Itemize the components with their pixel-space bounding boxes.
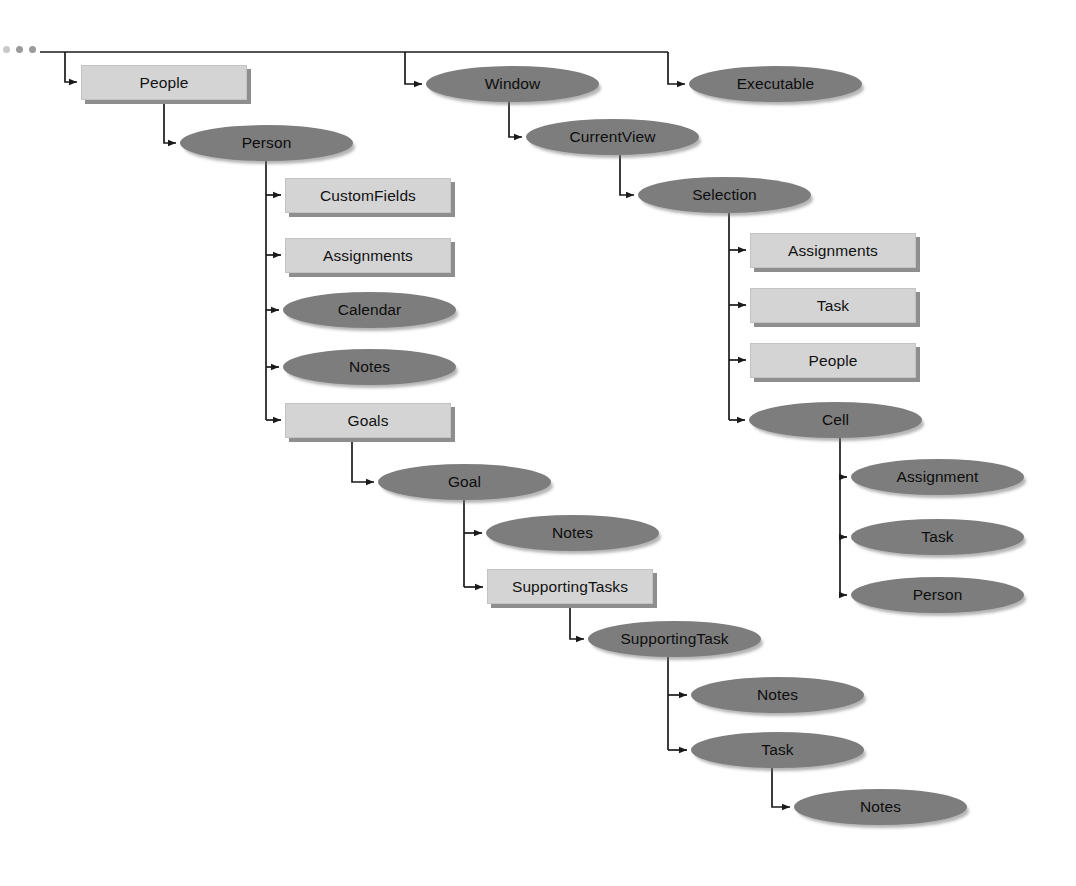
node-assignments-p[interactable]: Assignments (285, 238, 451, 273)
node-goal[interactable]: Goal (378, 464, 551, 500)
object-model-diagram: PeoplePersonCustomFieldsAssignmentsCalen… (0, 0, 1076, 886)
node-customfields[interactable]: CustomFields (285, 178, 451, 213)
node-supportingtask[interactable]: SupportingTask (588, 621, 761, 657)
node-label: Goals (348, 412, 389, 430)
node-executable[interactable]: Executable (689, 66, 862, 102)
node-label: Notes (349, 358, 390, 376)
node-notes-st[interactable]: Notes (691, 677, 864, 713)
node-label: Selection (692, 186, 757, 204)
node-people[interactable]: People (81, 65, 247, 100)
node-label: Notes (757, 686, 798, 704)
node-task-s[interactable]: Task (750, 288, 916, 323)
node-label: Person (242, 134, 292, 152)
node-notes-goal[interactable]: Notes (486, 515, 659, 551)
node-cell[interactable]: Cell (749, 402, 922, 438)
node-currentview[interactable]: CurrentView (526, 119, 699, 155)
node-label: Calendar (338, 301, 402, 319)
node-assignments-s[interactable]: Assignments (750, 233, 916, 268)
node-person[interactable]: Person (180, 125, 353, 161)
node-label: SupportingTasks (512, 578, 628, 596)
node-task-c[interactable]: Task (851, 519, 1024, 555)
node-label: Cell (822, 411, 849, 429)
node-people-s[interactable]: People (750, 343, 916, 378)
node-window[interactable]: Window (426, 66, 599, 102)
node-label: Notes (860, 798, 901, 816)
node-label: People (140, 74, 189, 92)
node-label: Goal (448, 473, 481, 491)
node-goals[interactable]: Goals (285, 403, 451, 438)
node-label: Task (761, 741, 793, 759)
node-supportingtasks[interactable]: SupportingTasks (487, 569, 653, 604)
node-calendar[interactable]: Calendar (283, 292, 456, 328)
node-task-st[interactable]: Task (691, 732, 864, 768)
node-assignment-c[interactable]: Assignment (851, 459, 1024, 495)
node-notes-task[interactable]: Notes (794, 789, 967, 825)
node-notes-person[interactable]: Notes (283, 349, 456, 385)
node-label: Assignments (788, 242, 878, 260)
node-label: Task (921, 528, 953, 546)
node-label: People (809, 352, 858, 370)
node-label: SupportingTask (620, 630, 728, 648)
node-label: Assignment (897, 468, 979, 486)
node-label: CurrentView (569, 128, 655, 146)
node-selection[interactable]: Selection (638, 177, 811, 213)
node-label: Assignments (323, 247, 413, 265)
node-label: Person (913, 586, 963, 604)
node-layer: PeoplePersonCustomFieldsAssignmentsCalen… (0, 0, 1076, 886)
node-label: Executable (737, 75, 815, 93)
node-label: CustomFields (320, 187, 416, 205)
node-label: Task (817, 297, 849, 315)
node-person-c[interactable]: Person (851, 577, 1024, 613)
node-label: Window (485, 75, 541, 93)
node-label: Notes (552, 524, 593, 542)
